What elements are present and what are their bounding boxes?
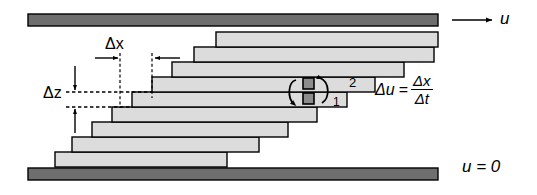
shear-flow-diagram: u u = 0 Δx Δz 1 2 Δu = Δx Δt [0,0,537,195]
equation-fraction: Δx Δt [411,73,433,106]
fluid-layer [194,47,434,62]
delta-z-label: Δz [43,85,62,101]
top-plate [28,14,438,26]
equation-denominator: Δt [413,90,431,106]
particle-1-label: 1 [333,96,340,108]
equation-equals: = [399,82,408,98]
fluid-layer [92,122,288,137]
fluid-layer [172,62,404,77]
particle-square-2 [303,78,314,89]
fluid-layer [216,32,438,47]
shear-rate-equation: Δu = Δx Δt [375,73,433,106]
diagram-canvas [0,0,537,195]
bottom-plate [28,168,438,180]
fluid-layer [55,152,227,167]
particle-square-1 [303,93,314,104]
equation-numerator: Δx [411,73,433,90]
bottom-plate-velocity-label: u = 0 [462,158,500,175]
top-plate-velocity-label: u [500,10,509,27]
fluid-layer [72,137,259,152]
particle-2-label: 2 [349,76,356,89]
fluid-layer [152,77,375,92]
delta-x-label: Δx [105,36,124,52]
equation-lhs: Δu [375,82,395,98]
fluid-layer [112,107,317,122]
